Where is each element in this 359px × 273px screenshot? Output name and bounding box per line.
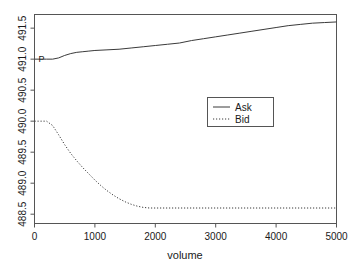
- x-tick-label: 1000: [84, 231, 107, 242]
- x-tick-label: 0: [32, 231, 38, 242]
- market-depth-chart: 488.5489.0489.5490.0490.5491.0491.5 0100…: [0, 0, 359, 273]
- y-tick-label: 489.5: [17, 139, 28, 164]
- chart-background: [0, 0, 359, 273]
- y-tick-label: 491.0: [17, 46, 28, 71]
- legend-label-bid: Bid: [235, 114, 249, 125]
- y-tick-label: 491.5: [17, 15, 28, 40]
- y-tick-label: 488.5: [17, 201, 28, 226]
- y-tick-label: 490.5: [17, 77, 28, 102]
- x-tick-label: 4000: [265, 231, 288, 242]
- x-tick-label: 2000: [144, 231, 167, 242]
- y-tick-label: 490.0: [17, 108, 28, 133]
- legend-label-ask: Ask: [235, 102, 253, 113]
- x-axis-title: volume: [167, 249, 202, 261]
- x-tick-label: 3000: [205, 231, 228, 242]
- annotation-label: P: [39, 54, 45, 64]
- annotation-layer: P: [39, 54, 45, 64]
- y-axis-labels: 488.5489.0489.5490.0490.5491.0491.5: [17, 15, 28, 227]
- chart-legend[interactable]: AskBid: [208, 98, 274, 127]
- y-tick-label: 489.0: [17, 170, 28, 195]
- x-tick-label: 5000: [325, 231, 348, 242]
- chart-container: 488.5489.0489.5490.0490.5491.0491.5 0100…: [0, 0, 359, 273]
